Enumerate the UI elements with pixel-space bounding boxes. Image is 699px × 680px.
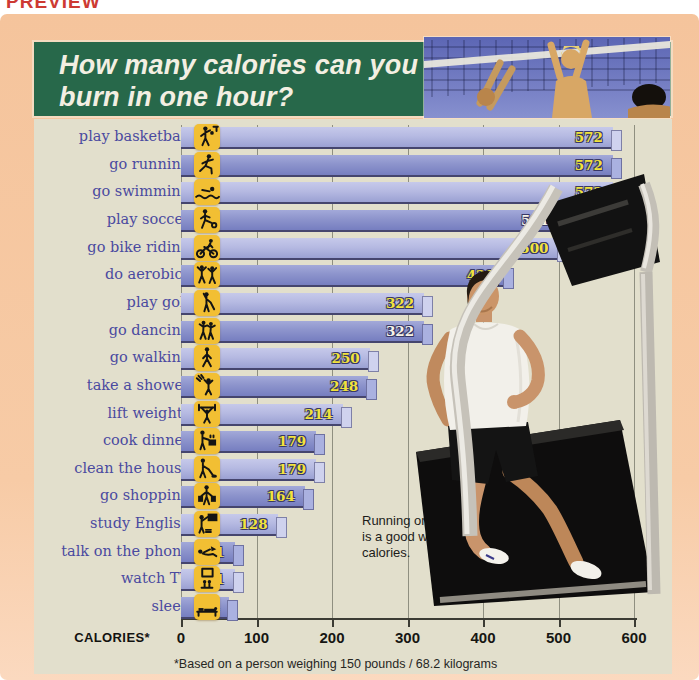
cleaning-icon: [194, 456, 220, 482]
axis-tick-label: 300: [395, 629, 420, 646]
chart-title: How many calories can you burn in one ho…: [59, 49, 418, 113]
infographic-panel: How many calories can you burn in one ho…: [0, 14, 699, 680]
dancing-icon: [194, 318, 220, 344]
axis-tick-label: 0: [177, 629, 185, 646]
treadmill-runner-photo: [388, 154, 670, 614]
axis-tick: [483, 618, 485, 627]
activity-label: go bike riding: [34, 239, 190, 255]
activity-label: do aerobics: [34, 266, 190, 282]
sleep-icon: [194, 594, 220, 620]
chart-row: play basketball 572: [34, 127, 672, 149]
axis-tick-label: 400: [470, 629, 495, 646]
weights-icon: [194, 401, 220, 427]
activity-label: watch TV: [34, 570, 190, 586]
footnote: *Based on a person weighing 150 pounds /…: [174, 657, 497, 671]
calorie-value: 572: [575, 129, 603, 145]
activity-label: go shopping: [34, 487, 190, 503]
calorie-value: 248: [330, 378, 358, 394]
calorie-value: 164: [267, 488, 295, 504]
calorie-value: 179: [278, 433, 306, 449]
activity-label: sleep: [34, 598, 190, 614]
calorie-value: 179: [278, 461, 306, 477]
activity-label: go swimming: [34, 183, 190, 199]
activity-label: go dancing: [34, 322, 190, 338]
volleyball-photo: [424, 37, 670, 118]
chart-title-line2: burn in one hour?: [59, 82, 293, 112]
bike-icon: [194, 235, 220, 261]
chart-title-line1: How many calories can you: [59, 50, 418, 80]
tv-icon: [194, 566, 220, 592]
preview-label: PREVIEW: [6, 0, 101, 13]
axis-tick-label: 600: [621, 629, 646, 646]
activity-label: go running: [34, 156, 190, 172]
activity-label: play golf: [34, 294, 190, 310]
soccer-icon: [194, 207, 220, 233]
shopping-icon: [194, 483, 220, 509]
calorie-bar: 572: [181, 127, 613, 149]
study-icon: [194, 511, 220, 537]
activity-label: play basketball: [34, 128, 190, 144]
walking-icon: [194, 345, 220, 371]
axis-tick: [634, 618, 636, 627]
activity-label: cook dinner: [34, 432, 190, 448]
activity-label: go walking: [34, 349, 190, 365]
calorie-value: 250: [332, 350, 360, 366]
preview-strip: PREVIEW: [6, 0, 101, 13]
activity-label: clean the house: [34, 460, 190, 476]
activity-label: take a shower: [34, 377, 190, 393]
axis-tick-label: 100: [244, 629, 269, 646]
volleyball-scene-art: [424, 37, 670, 118]
shower-icon: [194, 373, 220, 399]
activity-label: lift weights: [34, 405, 190, 421]
calorie-value: 128: [239, 516, 267, 532]
swimming-icon: [194, 179, 220, 205]
axis-tick: [559, 618, 561, 627]
activity-label: study English: [34, 515, 190, 531]
activity-label: talk on the phone: [34, 543, 190, 559]
calorie-value: 214: [304, 406, 332, 422]
activity-label: play soccer: [34, 211, 190, 227]
axis-tick-label: 200: [319, 629, 344, 646]
cooking-icon: [194, 428, 220, 454]
magazine-page: PREVIEW How many calories can you burn i…: [0, 0, 699, 680]
axis-tick: [332, 618, 334, 627]
x-axis-label: CALORIES*: [60, 630, 150, 645]
axis-tick: [408, 618, 410, 627]
basketball-icon: [194, 124, 220, 150]
running-icon: [194, 152, 220, 178]
bar-chart: play basketball 572 go running 572 go sw…: [34, 119, 672, 674]
axis-tick: [257, 618, 259, 627]
aerobics-icon: [194, 262, 220, 288]
phone-icon: [194, 539, 220, 565]
golf-icon: [194, 290, 220, 316]
axis-tick: [181, 618, 183, 627]
axis-tick-label: 500: [546, 629, 571, 646]
